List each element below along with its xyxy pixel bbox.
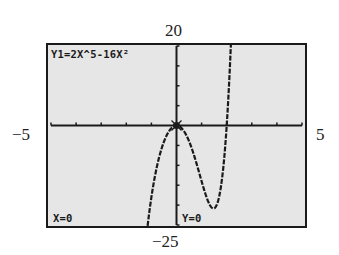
window-xmax-label: 5: [316, 126, 325, 143]
window-ymin-label: −25: [152, 233, 179, 250]
trace-x-value: X=0: [53, 213, 73, 224]
trace-y-value: Y=0: [182, 213, 202, 224]
equation-label: Y1=2X^5-16X²: [51, 49, 130, 60]
window-xmin-label: −5: [12, 126, 30, 143]
graph-plot-area: [48, 45, 305, 226]
function-curve-y1: [147, 45, 231, 226]
calculator-screen: Y1=2X^5-16X² X=0 Y=0: [46, 43, 307, 228]
window-ymax-label: 20: [165, 22, 182, 39]
